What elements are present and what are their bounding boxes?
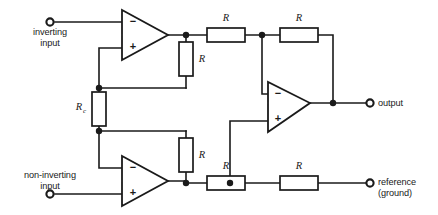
resistor-r-bottom-feedback-label: R — [198, 149, 206, 160]
opamp-bottom[interactable]: − + — [122, 156, 168, 206]
resistor-r-top-feedback-2[interactable]: R — [280, 12, 318, 42]
label-non-inverting-input: non-inverting input — [2, 170, 98, 191]
opamp-top[interactable]: − + — [122, 10, 168, 60]
junction-dot-gain-top — [96, 85, 102, 91]
terminal-inverting-input[interactable] — [46, 18, 53, 25]
wire-opamp-bottom-minus-feedback — [99, 131, 122, 168]
resistor-r-top-feedback-2-body — [280, 28, 318, 42]
opamp-output-minus-label: − — [275, 87, 281, 99]
terminal-output[interactable] — [366, 99, 373, 106]
junction-dot-output — [330, 100, 336, 106]
resistor-r-top-feedback-label: R — [198, 53, 206, 64]
resistor-r-gain-body — [92, 92, 106, 126]
junction-dot-top-mid — [259, 32, 265, 38]
opamp-output-plus-label: + — [275, 112, 281, 124]
resistor-r-bottom-input[interactable]: R — [207, 160, 245, 190]
resistor-r-bottom-ref-body — [280, 176, 318, 190]
terminal-reference-ground[interactable] — [366, 179, 373, 186]
resistor-r-top-input-label: R — [222, 12, 230, 23]
resistor-r-top-input[interactable]: R — [207, 12, 245, 42]
wire-node-c-to-opamp-plus — [230, 121, 268, 183]
label-reference-ground: reference (ground) — [378, 177, 438, 198]
junction-dot-gain-bottom — [96, 128, 102, 134]
resistor-r-top-feedback-body — [179, 42, 193, 76]
opamp-bottom-plus-label: + — [130, 186, 136, 198]
label-inverting-input: inverting input — [8, 27, 92, 48]
circuit-diagram: − + − + − + R R c R — [0, 0, 438, 215]
resistor-r-bottom-feedback-body — [179, 138, 193, 172]
terminal-non-inverting-input[interactable] — [46, 190, 53, 197]
resistor-r-bottom-ref-label: R — [295, 160, 303, 171]
resistor-r-bottom-input-body — [207, 176, 245, 190]
resistor-r-gain[interactable]: R c — [75, 92, 106, 126]
resistor-r-gain-label: R — [75, 101, 83, 112]
resistor-r-top-input-body — [207, 28, 245, 42]
opamp-top-minus-label: − — [130, 15, 136, 27]
junction-dot-bottom-mid — [227, 180, 233, 186]
resistor-r-bottom-feedback[interactable]: R — [179, 138, 206, 172]
wire-top-right-to-output-node — [318, 35, 333, 103]
resistor-r-top-feedback[interactable]: R — [179, 42, 206, 76]
opamp-bottom-minus-label: − — [130, 161, 136, 173]
resistor-r-gain-sublabel: c — [83, 107, 87, 115]
wire-opamp-top-plus-feedback — [99, 48, 122, 88]
label-output: output — [378, 98, 436, 109]
opamp-output[interactable]: − + — [268, 82, 310, 132]
junction-dot-top-opamp-output — [183, 32, 189, 38]
junction-dot-bottom-opamp-output — [183, 180, 189, 186]
resistor-r-bottom-ref[interactable]: R — [280, 160, 318, 190]
resistor-r-top-feedback-2-label: R — [295, 12, 303, 23]
resistor-r-bottom-input-label: R — [222, 160, 230, 171]
opamp-top-plus-label: + — [130, 40, 136, 52]
